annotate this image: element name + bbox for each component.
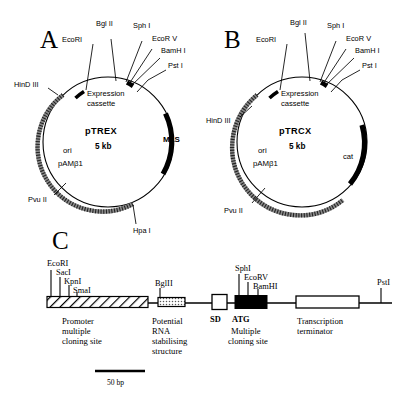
panel-c-promoter-box bbox=[47, 297, 148, 308]
rna-caption-line-2: RNA bbox=[152, 326, 171, 336]
plasmid-b-site-psti: Pst I bbox=[362, 61, 377, 70]
plasmid-b-size: 5 kb bbox=[289, 142, 305, 151]
plasmid-a-site-bglii: Bgl II bbox=[96, 19, 113, 28]
plasmid-b-ori-arc bbox=[232, 95, 343, 215]
panel-b-letter: B bbox=[224, 26, 241, 53]
panel-c: C EcoRI SacI KpnI bbox=[47, 227, 392, 387]
plasmid-a-ori-label-2: pAMβ1 bbox=[58, 159, 83, 168]
plasmid-b-cassette-left-cap bbox=[270, 92, 279, 99]
panel-c-rna-structure-box bbox=[158, 298, 185, 307]
panel-c-feature-mcs: Multiple cloning site bbox=[228, 326, 268, 346]
plasmid-a-site-hpai: Hpa I bbox=[133, 226, 151, 235]
plasmid-a-site-sphi: Sph I bbox=[133, 21, 150, 30]
panel-c-mcs-box bbox=[235, 296, 267, 309]
plasmid-a-lead-hpai bbox=[133, 205, 136, 224]
panel-c-label-smai: SmaI bbox=[73, 286, 91, 295]
promoter-caption-line-2: multiple bbox=[62, 326, 91, 336]
panel-c-label-kpni: KpnI bbox=[64, 277, 81, 286]
plasmid-b-lead-bamhi bbox=[325, 58, 354, 86]
panel-c-terminator-box bbox=[296, 296, 359, 308]
plasmid-b-name: pTRCX bbox=[279, 126, 312, 136]
mcs-caption-line-1: Multiple bbox=[231, 326, 261, 336]
plasmid-b-site-hindiii: HinD III bbox=[206, 116, 231, 125]
plasmid-a-name: pTREX bbox=[85, 126, 118, 136]
plasmid-a-lead-bamhi bbox=[131, 58, 160, 86]
rna-caption-line-1: Potential bbox=[152, 316, 183, 326]
plasmid-a-site-bamhi: BamH I bbox=[161, 46, 186, 55]
plasmid-b-site-sphi: Sph I bbox=[327, 21, 344, 30]
panel-c-label-saci: SacI bbox=[56, 268, 71, 277]
plasmid-b-cassette-label-2: cassette bbox=[281, 99, 309, 108]
terminator-caption-line-2: terminator bbox=[297, 326, 333, 336]
plasmid-b-site-ecorv: EcoR V bbox=[346, 34, 371, 43]
plasmid-a-cassette-label-1: Expression bbox=[87, 89, 125, 98]
plasmid-a-lead-bglii bbox=[111, 39, 116, 81]
plasmid-a-cassette-label-2: cassette bbox=[87, 99, 115, 108]
plasmid-a-cassette-left-cap bbox=[76, 92, 85, 99]
panel-c-label-ecorv: EcoRV bbox=[244, 273, 268, 282]
rna-caption-line-3: stabilising bbox=[152, 336, 188, 346]
plasmid-map-figure: A EcoRI Bgl II Sph I EcoR V BamH I Pst I… bbox=[0, 0, 417, 409]
plasmid-b-site-bamhi: BamH I bbox=[355, 46, 380, 55]
panel-c-feature-terminator: Transcription terminator bbox=[297, 316, 344, 336]
panel-c-feature-promoter: Promoter multiple cloning site bbox=[62, 316, 102, 346]
plasmid-a-marker-label: MLS bbox=[163, 135, 181, 144]
promoter-caption-line-1: Promoter bbox=[62, 316, 94, 326]
panel-c-feature-rna-structure: Potential RNA stabilising structure bbox=[152, 316, 188, 356]
panel-c-scale-label: 50 bp bbox=[107, 378, 124, 387]
panel-c-letter: C bbox=[52, 227, 69, 254]
plasmid-a-ori-arc-texture bbox=[38, 95, 133, 212]
plasmid-b-marker-label: cat bbox=[343, 152, 354, 161]
panel-c-label-sd: SD bbox=[210, 315, 221, 324]
plasmid-a-lead-ecori bbox=[86, 44, 93, 90]
plasmid-b-cassette-label-1: Expression bbox=[281, 89, 319, 98]
plasmid-a-ori-arc bbox=[38, 95, 133, 212]
plasmid-a-lead-psti bbox=[137, 70, 166, 92]
panel-c-label-bamhi: BamHI bbox=[253, 282, 278, 291]
panel-c-sd-box bbox=[212, 295, 227, 310]
plasmid-b-ori-label-2: pAMβ1 bbox=[253, 159, 278, 168]
plasmid-b-lead-psti bbox=[331, 70, 360, 92]
plasmid-a-site-pvuii: Pvu II bbox=[28, 195, 47, 204]
plasmid-b-site-pvuii: Pvu II bbox=[224, 206, 243, 215]
mcs-caption-line-2: cloning site bbox=[228, 336, 268, 346]
panel-b: B EcoRI Bgl II Sph I EcoR V BamH I Pst I… bbox=[206, 18, 380, 215]
plasmid-a-ori-label-1: ori bbox=[63, 146, 72, 155]
plasmid-a-site-hindiii: HinD III bbox=[14, 80, 39, 89]
terminator-caption-line-1: Transcription bbox=[297, 316, 344, 326]
rna-caption-line-4: structure bbox=[152, 346, 182, 356]
plasmid-b-ori-arc-texture bbox=[232, 95, 343, 215]
panel-c-label-bglii: BglII bbox=[155, 279, 173, 288]
plasmid-b-lead-ecori bbox=[280, 44, 287, 90]
promoter-caption-line-3: cloning site bbox=[62, 336, 102, 346]
panel-c-label-psti: PstI bbox=[377, 278, 390, 287]
panel-c-label-ecori: EcoRI bbox=[47, 259, 69, 268]
panel-a-letter: A bbox=[40, 26, 58, 53]
plasmid-b-ori-label-1: ori bbox=[258, 146, 267, 155]
plasmid-a-site-ecori: EcoRI bbox=[62, 35, 82, 44]
plasmid-a-lead-hindiii bbox=[48, 88, 58, 95]
panel-c-label-sphi: SphI bbox=[235, 264, 251, 273]
plasmid-b-site-bglii: Bgl II bbox=[290, 18, 307, 27]
plasmid-b-lead-bglii bbox=[305, 33, 310, 81]
plasmid-a-site-psti: Pst I bbox=[168, 61, 183, 70]
plasmid-a-site-ecorv: EcoR V bbox=[152, 34, 177, 43]
panel-c-label-atg: ATG bbox=[232, 315, 250, 324]
plasmid-b-site-ecori: EcoRI bbox=[256, 35, 276, 44]
panel-a: A EcoRI Bgl II Sph I EcoR V BamH I Pst I… bbox=[14, 19, 186, 235]
plasmid-a-size: 5 kb bbox=[95, 142, 111, 151]
